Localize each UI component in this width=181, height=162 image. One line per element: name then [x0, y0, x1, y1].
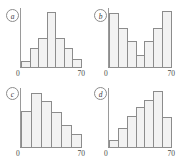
- panel-c: c 0 70: [0, 80, 90, 162]
- panel-label-a: a: [6, 9, 19, 22]
- x-tick-labels-c: 0 70: [16, 148, 86, 159]
- x-tick-label-70-d: 70: [168, 148, 176, 159]
- bars-a: [21, 8, 82, 67]
- x-tick-labels-a: 0 70: [16, 68, 86, 79]
- x-tick-label-70-a: 70: [78, 68, 86, 79]
- plot-area-a: 0 70: [20, 8, 82, 68]
- bars-d: [109, 88, 172, 147]
- x-tick-label-70-c: 70: [78, 148, 86, 159]
- x-tick-label-0-b: 0: [104, 68, 108, 79]
- plot-area-b: 0 70: [108, 8, 172, 68]
- x-tick-labels-d: 0 70: [104, 148, 176, 159]
- plot-area-d: 0 70: [108, 88, 172, 148]
- panel-b: b 0 70: [90, 0, 181, 80]
- panel-label-b: b: [94, 9, 107, 22]
- plot-area-c: 0 70: [20, 88, 82, 148]
- panel-d: d 0 70: [90, 80, 181, 162]
- x-tick-label-0-d: 0: [104, 148, 108, 159]
- panel-label-d: d: [94, 87, 107, 100]
- bars-c: [21, 88, 82, 147]
- histogram-bar: [162, 117, 172, 147]
- x-tick-label-0-a: 0: [16, 68, 20, 79]
- x-tick-label-70-b: 70: [168, 68, 176, 79]
- histogram-bar: [72, 59, 82, 67]
- histogram-bar: [162, 11, 172, 67]
- x-tick-labels-b: 0 70: [104, 68, 176, 79]
- panel-label-c: c: [6, 87, 19, 100]
- histogram-panel-grid: a 0 70 b 0 70 c: [0, 0, 181, 162]
- bars-b: [109, 8, 172, 67]
- histogram-bar: [71, 134, 82, 147]
- x-tick-label-0-c: 0: [16, 148, 20, 159]
- panel-a: a 0 70: [0, 0, 90, 80]
